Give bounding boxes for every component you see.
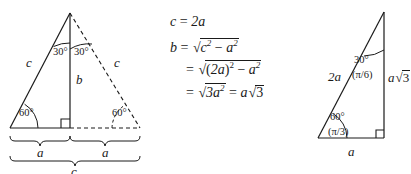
eq1-rhs: 2a xyxy=(191,14,205,29)
equation-line-3: = √(2a)2 − a2 xyxy=(186,60,261,77)
eq2-radical: √c2 − a2 xyxy=(192,38,239,55)
eq3-exponent: 2 xyxy=(229,60,234,70)
eq2-radicand-b-exponent: 2 xyxy=(233,38,238,48)
right-angle-marker-right-figure xyxy=(376,130,384,138)
left-triangle-dashed-edges xyxy=(70,13,140,128)
label-side-c-left: c xyxy=(26,56,32,69)
label-right-triangle-angle-bottom-rad: (π/3) xyxy=(328,127,348,138)
eq3-base: 2a xyxy=(211,62,225,77)
label-right-triangle-angle-bottom-deg: 60° xyxy=(330,112,345,123)
eq3-equals: = xyxy=(186,62,194,77)
eq3-radical: √(2a)2 − a2 xyxy=(197,60,261,77)
equation-line-2: b = √c2 − a2 xyxy=(170,38,239,55)
eq4-root-value: 3 xyxy=(256,85,263,100)
eq2-equals: = xyxy=(181,40,189,55)
eq4-equals-2: = xyxy=(229,85,237,100)
eq1-equals: = xyxy=(180,14,188,29)
eq3-radicand-b: a xyxy=(249,62,256,77)
eq4-radical-1: √3a2 xyxy=(197,83,225,100)
equation-line-1: c = 2a xyxy=(170,15,205,29)
eq4-coefficient: a xyxy=(241,85,248,100)
eq2-lhs: b xyxy=(170,40,177,55)
label-hypotenuse-2a: 2a xyxy=(328,70,341,83)
label-base-angle-right: 60° xyxy=(112,108,127,119)
eq4-equals-1: = xyxy=(186,85,194,100)
label-vertical-side-a-root-3: a√3 xyxy=(388,70,410,84)
eq4-radicand: 3a xyxy=(206,85,220,100)
eq4-radical-2: √3 xyxy=(248,85,265,100)
eq4-radicand-exponent: 2 xyxy=(220,83,225,93)
right-angle-marker-left-figure xyxy=(61,119,70,128)
equation-line-4: = √3a2 = a√3 xyxy=(186,83,264,100)
label-brace-c-bottom: c xyxy=(71,165,77,174)
eq3-radicand-b-exponent: 2 xyxy=(256,60,261,70)
label-altitude-b: b xyxy=(76,73,83,86)
eq2-radicand-a-exponent: 2 xyxy=(207,38,212,48)
label-apex-angle-left: 30° xyxy=(53,47,68,58)
label-brace-a-left: a xyxy=(37,146,44,159)
label-right-triangle-angle-top-deg: 30° xyxy=(354,55,369,66)
eq3-minus: − xyxy=(237,62,245,77)
base-angle-arcs xyxy=(25,104,125,128)
label-right-triangle-base-a: a xyxy=(348,145,355,158)
label-vertical-radical: √3 xyxy=(395,70,411,84)
eq2-minus: − xyxy=(215,40,223,55)
label-right-triangle-angle-top-rad: (π/6) xyxy=(352,70,372,81)
label-vertical-root-value: 3 xyxy=(403,70,410,85)
label-brace-a-right: a xyxy=(102,146,109,159)
label-base-angle-left: 60° xyxy=(19,108,34,119)
label-apex-angle-right: 30° xyxy=(74,47,89,58)
eq1-lhs: c xyxy=(170,14,176,29)
label-side-c-right: c xyxy=(114,56,120,69)
